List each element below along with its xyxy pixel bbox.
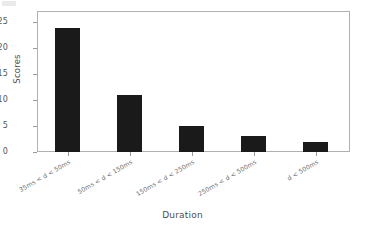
figure-canvas: Scores 0 5 10 15 20 25 35ms < d < 50ms 5… bbox=[0, 0, 365, 233]
y-tick-label-15: 15 bbox=[0, 70, 8, 78]
plot-area bbox=[38, 12, 349, 152]
y-tick-label-10: 10 bbox=[0, 96, 8, 104]
x-tick-mark-3 bbox=[254, 152, 255, 156]
bar-1 bbox=[117, 95, 142, 152]
y-tick-mark-0 bbox=[33, 152, 37, 153]
y-tick-label-25: 25 bbox=[0, 18, 8, 26]
x-tick-mark-1 bbox=[130, 152, 131, 156]
x-tick-label-4: d < 500ms bbox=[255, 158, 319, 199]
scan-artifact bbox=[2, 1, 16, 6]
y-tick-label-5: 5 bbox=[0, 122, 8, 130]
y-axis-label: Scores bbox=[12, 39, 22, 99]
x-tick-mark-2 bbox=[192, 152, 193, 156]
x-tick-mark-4 bbox=[316, 152, 317, 156]
bar-4 bbox=[303, 142, 328, 152]
x-axis-label: Duration bbox=[0, 210, 365, 220]
bar-0 bbox=[55, 28, 80, 152]
bar-2 bbox=[179, 126, 204, 152]
x-tick-mark-0 bbox=[68, 152, 69, 156]
y-tick-label-0: 0 bbox=[0, 148, 8, 156]
bar-3 bbox=[241, 136, 266, 152]
y-tick-label-20: 20 bbox=[0, 44, 8, 52]
